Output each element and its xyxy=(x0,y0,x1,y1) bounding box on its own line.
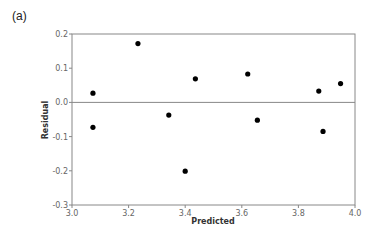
data-point xyxy=(338,81,343,86)
data-point xyxy=(320,129,325,134)
data-points xyxy=(90,41,343,174)
y-tick-label: -0.1 xyxy=(52,133,68,142)
x-tick-label: 3.0 xyxy=(66,209,79,218)
x-tick-label: 3.6 xyxy=(235,209,248,218)
data-point xyxy=(183,169,188,174)
data-point xyxy=(166,112,171,117)
data-point xyxy=(90,125,95,130)
x-tick-label: 3.2 xyxy=(122,209,135,218)
data-point xyxy=(135,41,140,46)
x-axis-title: Predicted xyxy=(191,217,235,226)
y-axis: 0.20.10.0-0.1-0.2-0.3 xyxy=(52,30,72,210)
y-tick-label: -0.3 xyxy=(52,201,68,210)
data-point xyxy=(90,91,95,96)
y-axis-title: Residual xyxy=(41,100,50,139)
residual-scatter-plot: 3.03.23.43.63.84.0 0.20.10.0-0.1-0.2-0.3… xyxy=(0,0,379,237)
y-tick-label: 0.1 xyxy=(55,64,68,73)
x-tick-label: 3.8 xyxy=(292,209,305,218)
y-tick-label: -0.2 xyxy=(52,167,68,176)
y-tick-label: 0.0 xyxy=(55,98,68,107)
data-point xyxy=(316,89,321,94)
data-point xyxy=(193,76,198,81)
data-point xyxy=(245,71,250,76)
plot-frame xyxy=(72,34,355,205)
plot-border xyxy=(72,34,355,205)
y-tick-label: 0.2 xyxy=(55,30,68,39)
x-tick-label: 3.4 xyxy=(179,209,192,218)
data-point xyxy=(255,118,260,123)
x-tick-label: 4.0 xyxy=(349,209,362,218)
